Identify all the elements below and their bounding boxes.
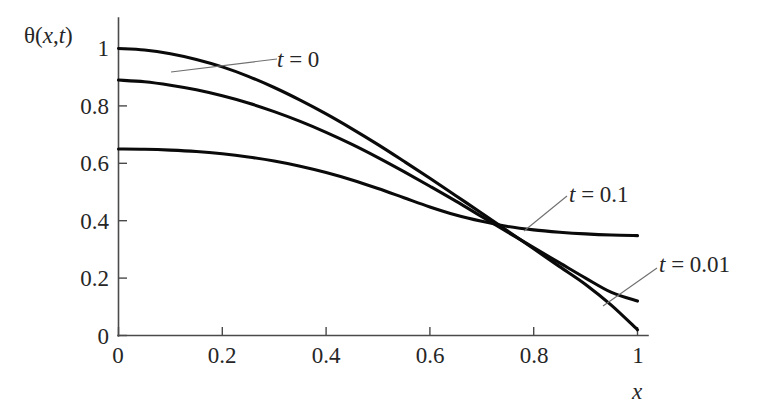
curve-label-t-0-value: = 0	[283, 47, 319, 72]
leader-line-t-0	[171, 59, 277, 72]
x-tick-label-5: 1	[632, 344, 644, 367]
curve-label-t-0.01-value: = 0.01	[665, 252, 730, 277]
x-tick-label-4: 0.8	[520, 344, 549, 367]
y-tick-label-5: 1	[64, 37, 109, 60]
x-axis-title-text: x	[632, 379, 642, 404]
y-tick-label-1: 0.2	[64, 267, 109, 290]
curve-label-t-0.1: t = 0.1	[569, 183, 629, 206]
curve-label-t-0.1-value: = 0.1	[575, 182, 628, 207]
x-axis-ticks	[119, 327, 638, 336]
curve-label-t-0: t = 0	[277, 48, 319, 71]
x-tick-label-2: 0.4	[312, 344, 341, 367]
y-tick-label-2: 0.4	[64, 210, 109, 233]
x-tick-label-1: 0.2	[208, 344, 237, 367]
x-tick-label-0: 0	[112, 344, 124, 367]
y-tick-label-3: 0.6	[64, 152, 109, 175]
figure-panel: θ(x,t) x 0 0.2 0.4 0.6 0.8 1 1 0.8 0.6 0…	[0, 0, 761, 413]
x-axis-title: x	[632, 380, 642, 403]
x-tick-label-3: 0.6	[416, 344, 445, 367]
y-axis-ticks	[119, 49, 128, 336]
leader-line-t-0.1	[524, 196, 567, 231]
y-tick-label-0: 0	[64, 325, 109, 348]
curve-t-0.1	[119, 149, 638, 236]
curve-label-t-0.01: t = 0.01	[659, 253, 730, 276]
y-tick-label-4: 0.8	[64, 95, 109, 118]
